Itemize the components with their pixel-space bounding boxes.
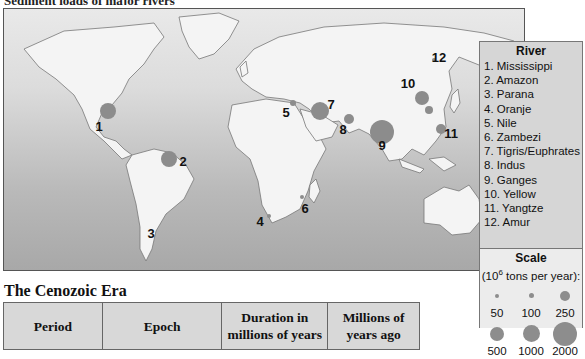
marker-label: 5 (282, 106, 289, 119)
scale-value: 2000 (552, 345, 578, 358)
river-legend: River 1. Mississippi 2. Amazon 3. Parana… (480, 42, 582, 249)
cenozoic-era-table: PeriodEpochDuration inmillions of yearsM… (3, 302, 420, 350)
world-map: 123456789101112 (3, 8, 525, 271)
table-header-row: PeriodEpochDuration inmillions of yearsM… (4, 303, 420, 350)
river-item: 8. Indus (484, 158, 582, 172)
column-header: Duration inmillions of years (222, 303, 328, 350)
river-item: 4. Oranje (484, 102, 582, 116)
marker-label: 1 (95, 120, 102, 133)
scale-unit: (106 tons per year): (480, 266, 582, 283)
marker-label: 3 (147, 227, 154, 240)
scale-dot (490, 327, 504, 341)
marker-label: 9 (378, 139, 385, 152)
era-title: The Cenozoic Era (4, 282, 127, 300)
river-item: 7. Tigris/Euphrates (484, 144, 582, 158)
scale-value: 250 (555, 307, 574, 320)
marker-label: 7 (327, 98, 334, 111)
marker-label: 10 (401, 77, 415, 90)
scale-legend: Scale (106 tons per year): 5010025050010… (480, 249, 582, 328)
sediment-marker (311, 102, 329, 120)
scale-heading: Scale (480, 251, 582, 265)
scale-value: 1000 (518, 345, 544, 358)
scale-unit-prefix: (10 (482, 270, 499, 282)
figure-title-cropped: Sediment loads of major rivers (4, 0, 175, 5)
sediment-marker (267, 214, 271, 218)
scale-entry: 1000 (514, 323, 548, 359)
scale-value: 100 (521, 307, 540, 320)
river-item: 11. Yangtze (484, 201, 582, 215)
sediment-marker (100, 103, 116, 119)
scale-dot (560, 291, 570, 301)
scale-entry: 50 (480, 285, 514, 323)
scale-dot (495, 294, 499, 298)
scale-entry: 2000 (548, 323, 582, 359)
river-item: 9. Ganges (484, 173, 582, 187)
river-list: 1. Mississippi 2. Amazon 3. Parana 4. Or… (484, 59, 582, 229)
river-item: 2. Amazon (484, 73, 582, 87)
sediment-marker (300, 195, 304, 199)
scale-entry: 500 (480, 323, 514, 359)
sediment-marker (161, 151, 177, 167)
sediment-marker (415, 91, 429, 105)
scale-dot (529, 293, 534, 298)
scale-value: 500 (487, 345, 506, 358)
scale-dot (553, 322, 577, 346)
river-item: 5. Nile (484, 116, 582, 130)
river-item: 6. Zambezi (484, 130, 582, 144)
marker-label: 11 (444, 127, 458, 140)
scale-dot (523, 325, 540, 342)
sediment-marker (290, 100, 296, 106)
river-item: 12. Amur (484, 215, 582, 229)
scale-grid: 5010025050010002000 (480, 285, 582, 359)
marker-label: 12 (432, 51, 446, 64)
column-header: Epoch (102, 303, 222, 350)
scale-value: 50 (491, 307, 504, 320)
marker-label: 2 (179, 155, 186, 168)
marker-label: 8 (339, 123, 346, 136)
marker-label: 4 (256, 215, 263, 228)
scale-entry: 250 (548, 285, 582, 323)
scale-entry: 100 (514, 285, 548, 323)
column-header: Millions ofyears ago (328, 303, 420, 350)
river-legend-heading: River (484, 44, 582, 58)
river-item: 3. Parana (484, 87, 582, 101)
sediment-marker (425, 106, 433, 114)
column-header: Period (4, 303, 103, 350)
marker-label: 6 (301, 202, 308, 215)
scale-unit-suffix: tons per year): (503, 270, 580, 282)
river-item: 10. Yellow (484, 187, 582, 201)
river-item: 1. Mississippi (484, 59, 582, 73)
legend-panel: River 1. Mississippi 2. Amazon 3. Parana… (479, 41, 583, 328)
